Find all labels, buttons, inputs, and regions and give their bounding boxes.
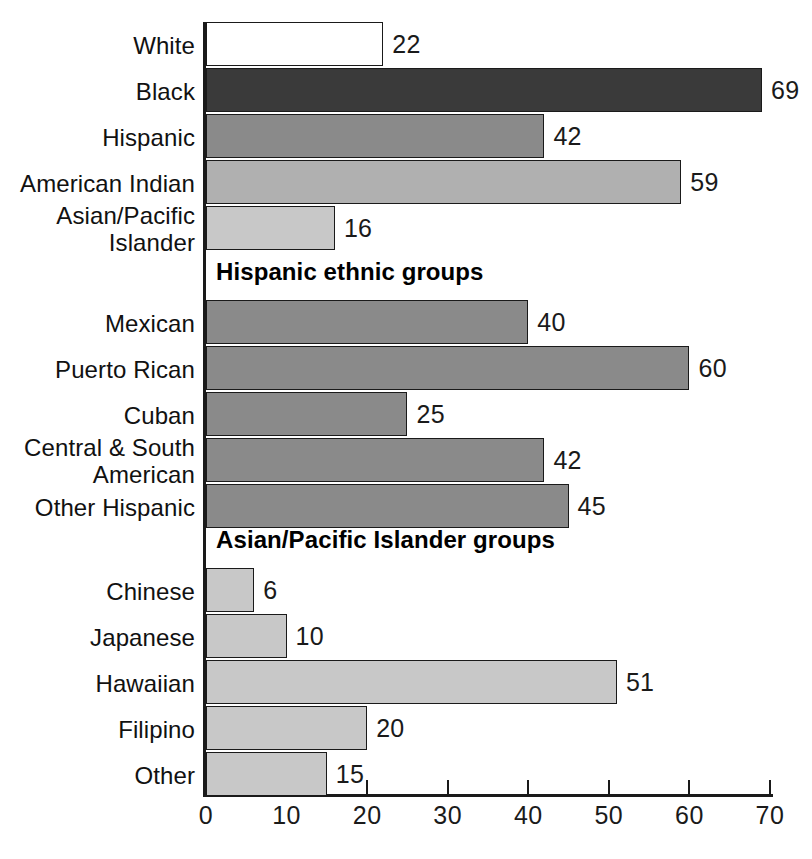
bar-row: White22 [0,22,812,66]
bar-chart: 010203040506070 White22Black69Hispanic42… [0,0,812,859]
bar-row: Cuban25 [0,392,812,436]
bar-value-label: 60 [698,354,726,382]
bar [206,484,569,528]
bar-category-label: Other Hispanic [35,494,195,521]
bar [206,22,383,66]
bar [206,614,287,658]
bar [206,68,762,112]
bar-value-label: 25 [416,400,444,428]
bar-row: Japanese10 [0,614,812,658]
bar [206,568,254,612]
bar-row: Black69 [0,68,812,112]
bar-category-label: White [133,32,195,59]
bar-row: Hispanic42 [0,114,812,158]
bar [206,392,407,436]
bar-row: Filipino20 [0,706,812,750]
bar [206,660,617,704]
bar-row: American Indian59 [0,160,812,204]
bar-row: Mexican40 [0,300,812,344]
bar [206,300,528,344]
bar-category-label: Puerto Rican [55,356,195,383]
bar-value-label: 40 [537,308,565,336]
section-header: Asian/Pacific Islander groups [216,526,555,554]
x-axis-tick-label: 70 [756,800,785,830]
bar [206,160,681,204]
bar-value-label: 45 [578,492,606,520]
x-axis-tick-label: 20 [353,800,382,830]
bar-value-label: 16 [344,214,372,242]
bar [206,114,544,158]
bar-category-label: Filipino [118,716,195,743]
bar-value-label: 20 [376,714,404,742]
bar-value-label: 22 [392,30,420,58]
bar-category-label: Asian/Pacific Islander [56,202,195,256]
bar-value-label: 42 [553,446,581,474]
bar-row: Asian/Pacific Islander16 [0,206,812,250]
bar [206,752,327,796]
bar-value-label: 69 [771,76,799,104]
bar-category-label: Black [136,78,195,105]
bar-value-label: 15 [336,760,364,788]
bar-row: Hawaiian51 [0,660,812,704]
bar [206,346,689,390]
bar [206,438,544,482]
bar-value-label: 10 [296,622,324,650]
x-axis-tick-label: 0 [199,800,213,830]
bar-category-label: Hawaiian [95,670,195,697]
bar-category-label: American Indian [20,170,195,197]
plot-area: 010203040506070 White22Black69Hispanic42… [0,0,812,859]
bar-row: Central & South American42 [0,438,812,482]
x-axis-tick-label: 40 [514,800,543,830]
bar-row: Chinese6 [0,568,812,612]
bar-category-label: Hispanic [102,124,195,151]
bar-category-label: Mexican [105,310,195,337]
section-header: Hispanic ethnic groups [216,258,484,286]
x-axis-tick-label: 50 [594,800,623,830]
bar-category-label: Chinese [106,578,195,605]
bar-row: Other Hispanic45 [0,484,812,528]
x-axis-tick-label: 10 [272,800,301,830]
bar-category-label: Cuban [124,402,195,429]
bar-value-label: 59 [690,168,718,196]
bar-value-label: 6 [263,576,277,604]
x-axis-tick-label: 60 [675,800,704,830]
bar [206,706,367,750]
bar-row: Puerto Rican60 [0,346,812,390]
x-axis-tick-label: 30 [433,800,462,830]
bar-category-label: Other [134,762,195,789]
bar-value-label: 42 [553,122,581,150]
bar-category-label: Japanese [90,624,195,651]
bar-row: Other15 [0,752,812,796]
bar [206,206,335,250]
bar-value-label: 51 [626,668,654,696]
bar-category-label: Central & South American [24,434,195,488]
